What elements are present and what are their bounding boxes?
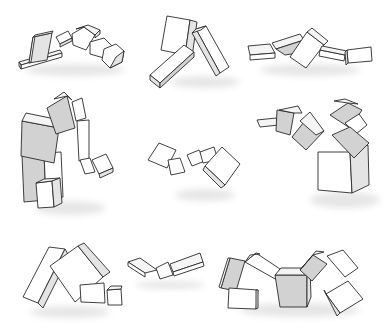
figure-1-slab-chain: [19, 25, 125, 76]
figure-7-tent-slabs: [23, 243, 122, 318]
block-creatures-illustration: [0, 0, 391, 332]
figure-9-arching-walker: [219, 250, 363, 317]
figure-5-floating-cubes: [148, 143, 240, 201]
figure-8-flat-chain: [128, 253, 205, 289]
figure-2-leaning-slabs: [150, 16, 240, 88]
figure-4-tall-column-arm: [21, 92, 113, 215]
figure-6-base-cube-cluster: [257, 99, 380, 208]
figure-3-horizontal-chain: [248, 28, 372, 76]
